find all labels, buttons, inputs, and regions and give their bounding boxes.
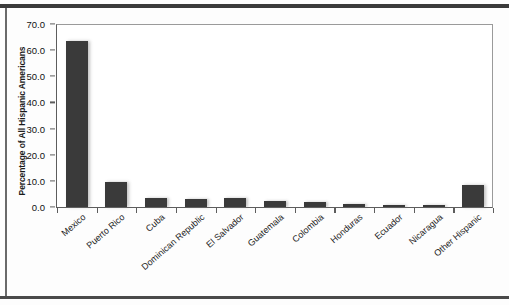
bar — [383, 205, 405, 207]
bar-series — [57, 24, 493, 207]
x-axis-tick-mark — [334, 208, 335, 213]
bar — [423, 205, 445, 207]
x-axis-tick-mark — [176, 208, 177, 213]
bar — [304, 202, 326, 207]
x-axis-tick-mark — [57, 208, 58, 213]
x-axis-tick-mark — [414, 208, 415, 213]
y-axis-tick-label: 20.0 — [0, 149, 45, 160]
x-axis-tick-mark — [374, 208, 375, 213]
y-axis-tick-mark — [50, 206, 55, 207]
y-axis-tick-label: 40.0 — [0, 97, 45, 108]
x-axis-tick-mark — [97, 208, 98, 213]
figure-page: Percentage of All Hispanic Americans 0.0… — [0, 0, 509, 305]
x-axis-tick-mark — [255, 208, 256, 213]
y-axis-ticks: 0.010.020.030.040.050.060.070.0 — [0, 24, 56, 208]
bar — [462, 185, 484, 207]
bar — [224, 198, 246, 207]
y-axis-tick-label: 0.0 — [0, 202, 45, 213]
x-axis-tick-mark — [295, 208, 296, 213]
x-axis-tick-mark — [493, 208, 494, 213]
bar — [145, 198, 167, 207]
bar-chart-figure: Percentage of All Hispanic Americans 0.0… — [0, 8, 509, 296]
y-axis-tick-label: 50.0 — [0, 71, 45, 82]
y-axis-tick-mark — [50, 180, 55, 181]
bar — [105, 182, 127, 207]
y-axis-tick-mark — [50, 128, 55, 129]
y-axis-tick-mark — [50, 23, 55, 24]
y-axis-tick-label: 70.0 — [0, 19, 45, 30]
y-axis-tick-label: 60.0 — [0, 45, 45, 56]
y-axis-tick-label: 30.0 — [0, 123, 45, 134]
x-axis-tick-mark — [136, 208, 137, 213]
y-axis-tick-mark — [50, 102, 55, 103]
bar — [343, 204, 365, 207]
bar — [66, 41, 88, 207]
bar — [264, 201, 286, 207]
x-axis-tick-mark — [216, 208, 217, 213]
y-axis-tick-mark — [50, 154, 55, 155]
y-axis-tick-mark — [50, 76, 55, 77]
y-axis-tick-label: 10.0 — [0, 175, 45, 186]
bar — [185, 199, 207, 207]
y-axis-tick-mark — [50, 50, 55, 51]
x-axis-tick-mark — [453, 208, 454, 213]
